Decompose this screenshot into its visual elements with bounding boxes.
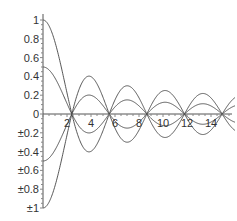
y-tick-label: ±1 [27,202,39,214]
chart: 10.80.60.40.20±0.2±0.4±0.6±0.8±1 2468101… [0,0,237,221]
y-tick-label: 1 [33,14,39,26]
curve-0 [43,20,235,152]
y-tick-label: 0.6 [24,52,39,64]
x-tick-label: 6 [112,117,118,129]
y-tick-label: ±0.6 [18,164,39,176]
y-tick-label: 0.8 [24,33,39,45]
y-tick-label: ±0.8 [18,183,39,195]
y-ticks: 10.80.60.40.20±0.2±0.4±0.6±0.8±1 [18,14,43,214]
x-tick-label: 4 [88,117,94,129]
x-tick-label: 8 [136,117,142,129]
y-tick-label: ±0.4 [18,146,39,158]
x-tick-label: 2 [64,117,70,129]
y-tick-label: 0 [33,108,39,120]
curve-1 [43,76,235,208]
y-tick-label: 0.2 [24,89,39,101]
y-tick-label: 0.4 [24,70,39,82]
x-tick-label: 12 [181,117,193,129]
x-tick-label: 10 [157,117,169,129]
x-tick-label: 14 [205,117,217,129]
y-tick-label: ±0.2 [18,127,39,139]
